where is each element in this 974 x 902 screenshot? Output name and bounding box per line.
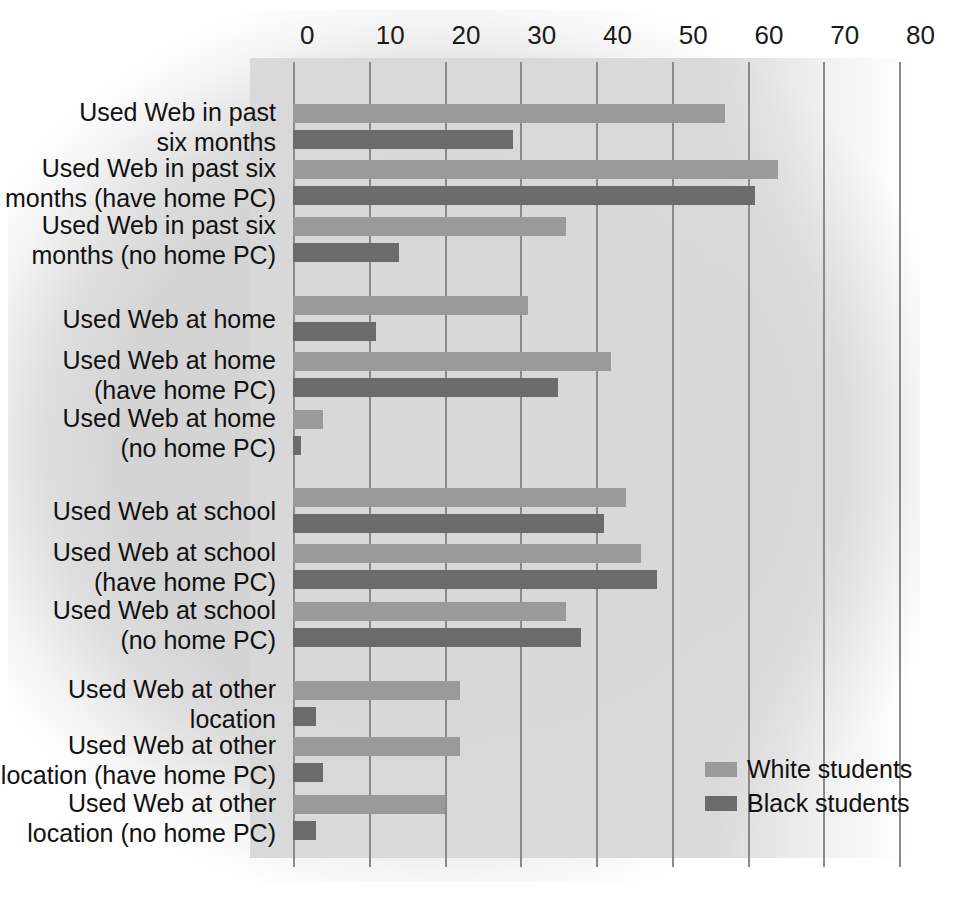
x-tick-label-30: 30 xyxy=(520,22,556,48)
bar-white-students xyxy=(293,217,566,236)
bar-white-students xyxy=(293,488,626,507)
chart-root: Used Web in past six monthsUsed Web in p… xyxy=(0,0,974,902)
category-label: Used Web at school (no home PC) xyxy=(0,595,276,655)
bar-white-students xyxy=(293,160,778,179)
gridline-60 xyxy=(748,62,750,867)
plot-area: 01020304050607080 xyxy=(293,62,899,867)
x-tick-label-40: 40 xyxy=(596,22,632,48)
category-label: Used Web at other location xyxy=(0,674,276,734)
category-label: Used Web at home (have home PC) xyxy=(0,345,276,405)
bar-black-students xyxy=(293,186,755,205)
bar-white-students xyxy=(293,737,460,756)
bar-black-students xyxy=(293,821,316,840)
gridline-70 xyxy=(823,62,825,867)
category-label: Used Web at other location (have home PC… xyxy=(0,730,276,790)
gridline-80 xyxy=(899,62,901,867)
legend: White studentsBlack students xyxy=(705,752,912,820)
x-tick-label-60: 60 xyxy=(748,22,784,48)
legend-label: Black students xyxy=(747,789,910,818)
bar-white-students xyxy=(293,795,445,814)
bar-black-students xyxy=(293,130,513,149)
x-tick-label-20: 20 xyxy=(445,22,481,48)
x-tick-label-80: 80 xyxy=(899,22,935,48)
bar-black-students xyxy=(293,243,399,262)
legend-item: White students xyxy=(705,752,912,786)
category-label: Used Web in past six months (no home PC) xyxy=(0,210,276,270)
gridline-30 xyxy=(520,62,522,867)
gridline-50 xyxy=(672,62,674,867)
x-tick-label-70: 70 xyxy=(823,22,859,48)
bar-black-students xyxy=(293,436,301,455)
bar-black-students xyxy=(293,570,657,589)
bar-black-students xyxy=(293,707,316,726)
legend-swatch-black-students xyxy=(705,796,737,811)
x-tick-label-50: 50 xyxy=(672,22,708,48)
category-label: Used Web at school xyxy=(0,496,276,526)
bar-black-students xyxy=(293,514,604,533)
x-tick-label-0: 0 xyxy=(293,22,314,48)
category-label: Used Web at home (no home PC) xyxy=(0,403,276,463)
bar-black-students xyxy=(293,378,558,397)
category-label: Used Web in past six months xyxy=(0,97,276,157)
bar-white-students xyxy=(293,681,460,700)
category-label: Used Web at home xyxy=(0,304,276,334)
legend-label: White students xyxy=(747,755,912,784)
bar-black-students xyxy=(293,628,581,647)
category-label: Used Web in past six months (have home P… xyxy=(0,153,276,213)
category-label: Used Web at school (have home PC) xyxy=(0,537,276,597)
legend-item: Black students xyxy=(705,786,912,820)
category-label-axis: Used Web in past six monthsUsed Web in p… xyxy=(0,62,286,867)
legend-swatch-white-students xyxy=(705,762,737,777)
bar-black-students xyxy=(293,763,323,782)
category-label: Used Web at other location (no home PC) xyxy=(0,788,276,848)
bar-white-students xyxy=(293,602,566,621)
bar-white-students xyxy=(293,104,725,123)
bar-white-students xyxy=(293,544,641,563)
bar-black-students xyxy=(293,322,376,341)
bar-white-students xyxy=(293,352,611,371)
x-tick-label-10: 10 xyxy=(369,22,405,48)
bar-white-students xyxy=(293,296,528,315)
gridline-40 xyxy=(596,62,598,867)
bar-white-students xyxy=(293,410,323,429)
